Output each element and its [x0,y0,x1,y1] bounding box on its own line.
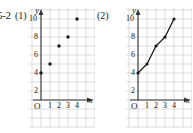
x-tick-1-1: 1 [48,102,52,110]
origin-label-1: O [34,102,41,111]
y-tick-8-1: 8 [34,33,38,41]
x-tick-2-2: 2 [154,102,158,110]
x-tick-4-1: 4 [75,102,79,110]
x-tick-2-1: 2 [57,102,61,110]
panel-label-1: (1) [15,10,27,21]
exercise-number-label: 5-2 [0,9,11,21]
x-tick-3-1: 3 [66,102,70,110]
y-tick-4-2: 4 [131,69,135,77]
y-tick-6-1: 6 [34,51,38,59]
y-tick-6-2: 6 [131,51,135,59]
x-axis-label-2: x [186,95,190,105]
x-tick-3-2: 3 [163,102,167,110]
panel-label-2: (2) [97,10,109,21]
y-tick-4-1: 4 [34,69,38,77]
x-tick-1-2: 1 [145,102,149,110]
chart-panel-1: y x O 10 8 6 4 2 1 2 3 4 [29,6,95,129]
y-tick-2-1: 2 [34,87,38,95]
x-axis-label-1: x [89,95,93,105]
y-tick-10-1: 10 [29,15,37,23]
y-tick-8-2: 8 [131,33,135,41]
axes-1 [33,9,93,102]
y-tick-10-2: 10 [126,15,134,23]
worksheet-page: 5-2 (1) [0,0,193,133]
axes-2 [130,9,190,102]
origin-label-2: O [131,102,138,111]
x-tick-4-2: 4 [172,102,176,110]
chart-panel-2: y x O 10 8 6 4 2 1 2 3 4 [126,6,192,129]
y-tick-2-2: 2 [131,87,135,95]
